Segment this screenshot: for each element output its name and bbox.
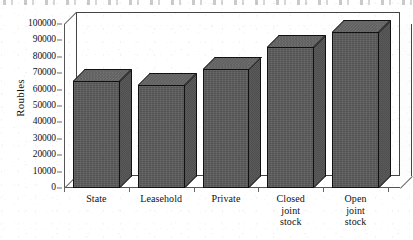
bar xyxy=(267,47,314,188)
y-axis-tick-label: 80000 xyxy=(33,52,56,62)
y-axis-tick-mark xyxy=(57,171,62,172)
y-axis-tick-mark xyxy=(57,40,62,41)
x-axis-tick-mark xyxy=(388,188,389,192)
x-axis-category-label: Closed joint stock xyxy=(258,193,323,228)
y-axis-tick-mark xyxy=(57,188,62,189)
y-axis-tick-label: 40000 xyxy=(33,118,56,128)
x-axis-tick-mark xyxy=(129,188,130,192)
bar-side-face xyxy=(249,57,261,188)
bar-front-face xyxy=(332,32,379,188)
y-axis-tick-mark xyxy=(57,89,62,90)
y-axis-tick-label: 0 xyxy=(51,183,56,193)
bar-series xyxy=(64,12,400,188)
bar-front-face xyxy=(73,81,120,188)
x-axis-tick-mark xyxy=(323,188,324,192)
y-axis-tick-mark xyxy=(57,122,62,123)
y-axis-tick-label: 20000 xyxy=(33,150,56,160)
bar-side-face xyxy=(314,35,326,188)
y-axis-tick-label: 50000 xyxy=(33,101,56,111)
bar-side-face xyxy=(379,20,391,188)
x-axis-category-label: Open joint stock xyxy=(323,193,388,228)
y-axis-tick-mark xyxy=(57,138,62,139)
y-axis-tick-label: 30000 xyxy=(33,134,56,144)
y-axis-tick-mark xyxy=(57,56,62,57)
bar-front-face xyxy=(203,69,250,188)
y-axis-tick-label: 70000 xyxy=(33,68,56,78)
y-axis-tick-label: 60000 xyxy=(33,85,56,95)
bar xyxy=(73,81,120,188)
bar-side-face xyxy=(120,69,132,188)
y-axis-tick-label: 10000 xyxy=(33,167,56,177)
cropped-text-remnant xyxy=(0,0,412,5)
bar-side-face xyxy=(185,73,197,188)
bar-front-face xyxy=(267,47,314,188)
y-axis-tick-mark xyxy=(57,155,62,156)
x-axis-tick-mark xyxy=(64,188,65,192)
y-axis-tick-label: 100000 xyxy=(28,19,56,29)
bar-front-face xyxy=(138,85,185,188)
plot-right-wall xyxy=(400,24,412,176)
bar xyxy=(203,69,250,188)
y-axis-tick-mark xyxy=(57,24,62,25)
x-axis-tick-mark xyxy=(258,188,259,192)
x-axis-tick-mark xyxy=(194,188,195,192)
x-axis-category-label: State xyxy=(64,193,129,205)
x-axis-labels: StateLeaseholdPrivateClosed joint stockO… xyxy=(64,193,412,240)
floor-depth-line-right xyxy=(400,176,413,189)
x-axis-category-label: Private xyxy=(194,193,259,205)
y-axis-tick-label: 90000 xyxy=(33,36,56,46)
x-axis-category-label: Leasehold xyxy=(129,193,194,205)
bar xyxy=(138,85,185,188)
y-axis-ticks: 1000009000080000700006000050000400003000… xyxy=(0,0,64,240)
y-axis-tick-mark xyxy=(57,106,62,107)
y-axis-tick-mark xyxy=(57,73,62,74)
bar xyxy=(332,32,379,188)
